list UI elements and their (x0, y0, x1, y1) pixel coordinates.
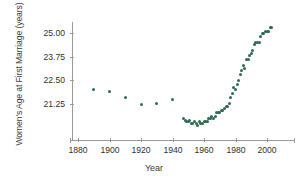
data-point (234, 88, 237, 91)
plot-area: 21.2522.5023.7525.0018801900192019401960… (0, 0, 308, 187)
data-point (270, 26, 273, 29)
y-tick-label: 22.50 (0, 75, 65, 85)
data-point (228, 102, 231, 105)
data-point (242, 64, 245, 67)
data-point (214, 115, 217, 118)
x-tick-mark (204, 138, 205, 142)
data-point (267, 30, 270, 33)
y-tick-mark (70, 33, 74, 34)
scatter-plot-figure: Women's Age at First Marriage (years) 21… (0, 0, 308, 187)
data-point (188, 119, 191, 122)
y-tick-mark (70, 104, 74, 105)
x-tick-mark (267, 138, 268, 142)
data-point (108, 90, 111, 93)
data-point (140, 103, 143, 106)
data-point (206, 120, 209, 123)
y-axis-line (72, 22, 73, 140)
y-tick-label: 21.25 (0, 99, 65, 109)
x-tick-label: 2000 (247, 145, 287, 155)
data-point (92, 88, 95, 91)
y-tick-mark (70, 57, 74, 58)
data-point (231, 92, 234, 95)
data-point (259, 35, 262, 38)
y-tick-label: 25.00 (0, 28, 65, 38)
x-tick-mark (173, 138, 174, 142)
x-axis-line (70, 140, 295, 141)
data-point (229, 96, 232, 99)
data-point (236, 83, 239, 86)
data-point (226, 105, 229, 108)
data-point (258, 41, 261, 44)
data-point (155, 102, 158, 105)
data-point (239, 73, 242, 76)
data-point (251, 49, 254, 52)
x-tick-mark (141, 138, 142, 142)
x-axis-right-cap (294, 138, 295, 143)
data-point (237, 79, 240, 82)
y-tick-mark (70, 80, 74, 81)
x-axis-left-cap (70, 138, 71, 143)
x-tick-mark (236, 138, 237, 142)
x-tick-mark (110, 138, 111, 142)
data-point (243, 67, 246, 70)
data-point (171, 98, 174, 101)
y-tick-label: 23.75 (0, 52, 65, 62)
data-point (247, 58, 250, 61)
data-point (250, 52, 253, 55)
x-axis-title: Year (0, 163, 308, 173)
data-point (124, 96, 127, 99)
x-tick-mark (78, 138, 79, 142)
